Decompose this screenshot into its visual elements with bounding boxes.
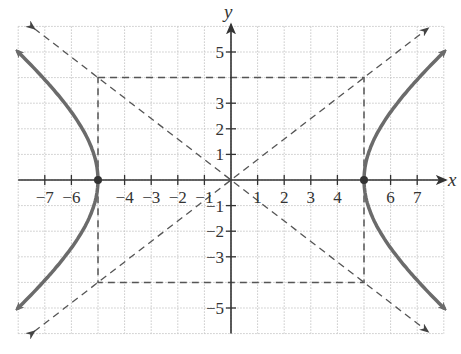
x-tick-label: 3: [307, 188, 316, 207]
y-tick-label: −1: [206, 197, 224, 216]
vertex-point: [94, 176, 102, 184]
y-tick-label: −5: [206, 299, 224, 318]
hyperbola-plot: −7−6−4−3−2−11234675321−1−2−3−5 x y: [0, 0, 461, 354]
y-tick-label: 1: [216, 145, 225, 164]
y-tick-label: 3: [216, 94, 225, 113]
right-branch-upper: [364, 52, 444, 180]
y-axis-label: y: [222, 1, 233, 22]
x-tick-label: −7: [36, 188, 55, 207]
y-tick-label: 5: [216, 43, 225, 62]
x-tick-label: 2: [280, 188, 289, 207]
left-branch-lower: [18, 180, 98, 308]
x-tick-label: −2: [169, 188, 187, 207]
x-tick-label: −6: [62, 188, 80, 207]
x-tick-label: 4: [333, 188, 342, 207]
x-tick-label: 6: [386, 188, 395, 207]
y-tick-label: −3: [206, 248, 224, 267]
y-tick-label: −2: [206, 222, 224, 241]
y-tick-label: 2: [216, 120, 225, 139]
left-branch-upper: [18, 52, 98, 180]
x-tick-label: 7: [413, 188, 422, 207]
axes: [18, 24, 446, 333]
vertex-point: [360, 176, 368, 184]
x-axis-label: x: [447, 169, 457, 190]
x-tick-label: −3: [142, 188, 160, 207]
x-tick-label: −4: [116, 188, 135, 207]
x-tick-label: 1: [253, 188, 262, 207]
right-branch-lower: [364, 180, 444, 308]
